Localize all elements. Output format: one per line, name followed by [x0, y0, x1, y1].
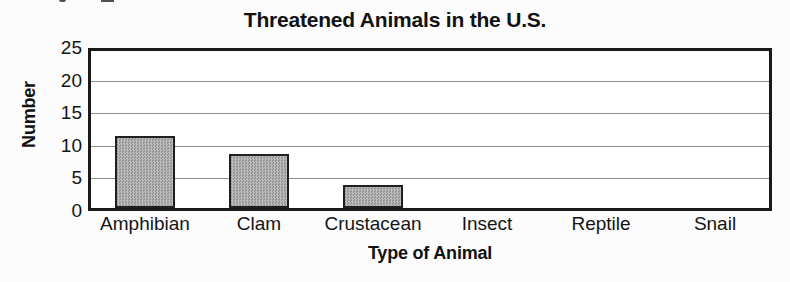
- x-tick-label-reptile: Reptile: [544, 214, 658, 235]
- chart-title: Threatened Animals in the U.S.: [0, 8, 790, 32]
- scan-artifact-mark: [59, 0, 66, 2]
- y-tick-label: 5: [36, 168, 82, 187]
- x-tick-label-insect: Insect: [430, 214, 544, 235]
- y-tick-label: 10: [36, 136, 82, 155]
- bar-chart-figure: Threatened Animals in the U.S. Number 05…: [0, 0, 790, 282]
- y-tick-label: 25: [36, 38, 82, 57]
- y-axis-tick-labels: 0510152025: [30, 48, 82, 211]
- bars-layer: [91, 51, 769, 208]
- x-tick-label-crustacean: Crustacean: [316, 214, 430, 235]
- x-axis-tick-labels: AmphibianClamCrustaceanInsectReptileSnai…: [88, 214, 772, 242]
- bar-amphibian: [115, 136, 175, 208]
- y-tick-label: 20: [36, 71, 82, 90]
- scan-artifact-mark: [101, 0, 114, 2]
- x-tick-label-amphibian: Amphibian: [88, 214, 202, 235]
- y-tick-label: 15: [36, 103, 82, 122]
- y-tick-label: 0: [36, 201, 82, 220]
- x-axis-title: Type of Animal: [88, 243, 772, 264]
- plot-area: [88, 48, 772, 211]
- x-tick-label-clam: Clam: [202, 214, 316, 235]
- bar-crustacean: [343, 185, 403, 208]
- bar-clam: [229, 154, 289, 208]
- x-tick-label-snail: Snail: [658, 214, 772, 235]
